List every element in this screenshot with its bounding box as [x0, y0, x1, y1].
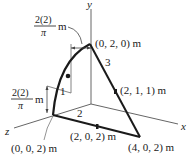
centroid-marker-2 [96, 124, 99, 129]
dim-top-unit: m [58, 20, 67, 32]
axis-label-y: y [86, 0, 92, 10]
axis-label-x: x [180, 120, 186, 132]
dim-left-denominator: π [18, 100, 24, 111]
point-label-bottom-right: (4, 0, 2) m [128, 141, 175, 154]
segment-1-arc [53, 44, 90, 115]
dimension-top-leader [68, 27, 82, 44]
segment-label-2: 2 [77, 107, 83, 119]
dim-top-numerator: 2(2) [35, 14, 52, 26]
segment-label-1: 1 [60, 85, 66, 97]
dim-left-unit: m [35, 93, 44, 105]
dim-top-denominator: π [41, 27, 47, 38]
point-leader [44, 116, 53, 140]
point-label-bottom-mid: (2, 0, 2) m [70, 130, 117, 143]
diagram-canvas: y z x (0, 2, 0) m (2, 1, 1) m (0, 0, 2) … [0, 0, 191, 162]
centroid-marker-1 [66, 74, 71, 79]
dim-left-numerator: 2(2) [12, 87, 29, 99]
point-label-mid: (2, 1, 1) m [120, 84, 167, 97]
point-label-top: (0, 2, 0) m [95, 37, 142, 50]
x-axis [91, 104, 178, 124]
axis-label-z: z [4, 125, 10, 137]
arrowhead [87, 47, 91, 50]
segment-label-3: 3 [105, 56, 111, 68]
point-label-bottom-left: (0, 0, 2) m [11, 142, 58, 155]
arrowhead [46, 109, 49, 113]
arrowhead [71, 47, 75, 50]
centroid-marker-3 [114, 89, 117, 94]
